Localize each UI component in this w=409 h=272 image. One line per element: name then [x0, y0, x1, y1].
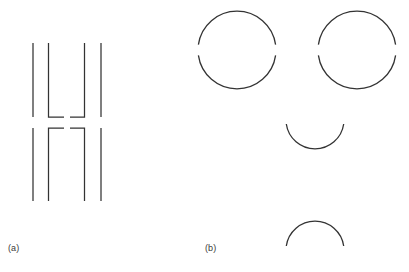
circle-left-lower-arc	[198, 55, 275, 88]
circle-left-gapped	[198, 11, 275, 89]
upper-bracket-right	[70, 43, 85, 117]
circle-left-upper-arc	[198, 11, 275, 44]
lower-bracket-right	[70, 128, 85, 201]
circle-right-gapped	[318, 11, 395, 89]
lower-bracket-group	[33, 128, 101, 201]
upper-bracket-left	[49, 43, 65, 117]
upper-bracket-group	[33, 43, 101, 117]
panel-b-group	[198, 11, 395, 246]
panel-a-caption: (a)	[8, 243, 19, 253]
circle-right-upper-arc	[318, 11, 395, 44]
figure-container: (a) (b)	[0, 0, 409, 272]
figure-canvas	[0, 0, 409, 272]
panel-b-caption: (b)	[205, 243, 216, 253]
panel-a-group	[33, 43, 101, 201]
lower-bracket-left	[49, 128, 65, 201]
arc-cup-bottom	[286, 124, 343, 149]
arc-cap-top	[286, 221, 343, 246]
circle-right-lower-arc	[318, 55, 395, 88]
